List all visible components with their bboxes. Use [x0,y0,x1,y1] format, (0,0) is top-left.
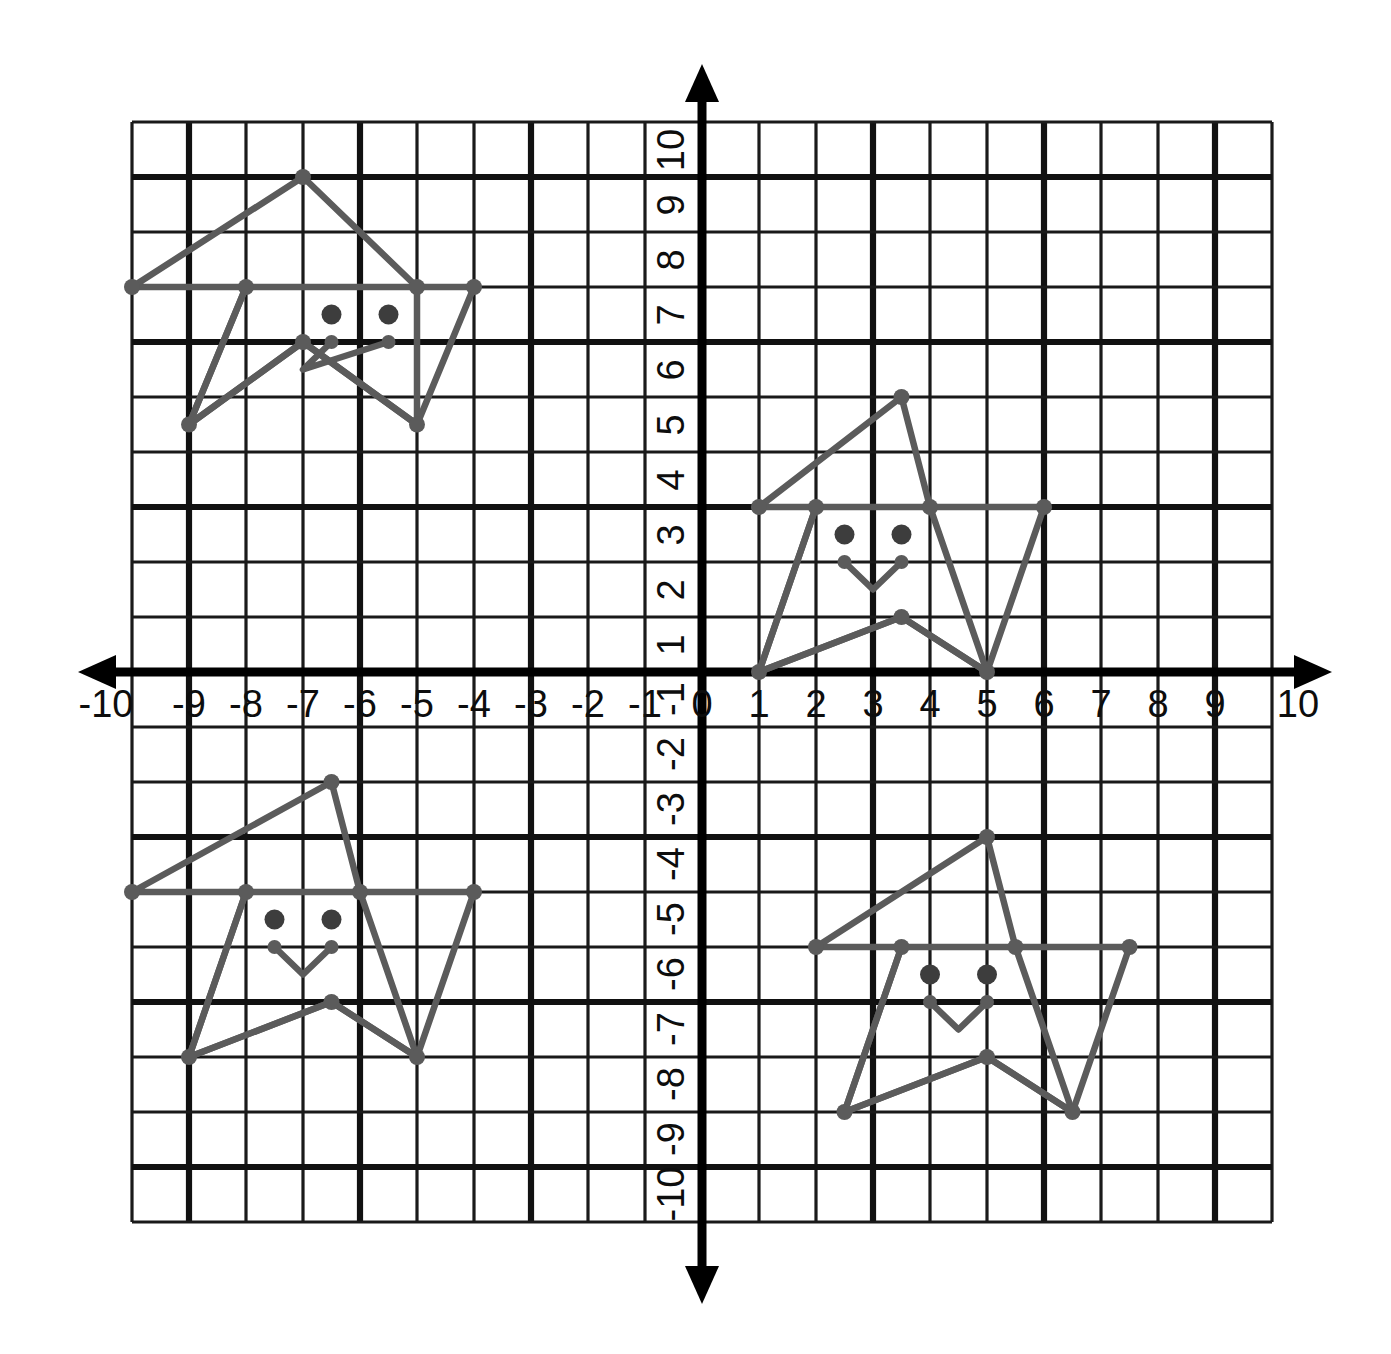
x-tick-label: -4 [457,683,491,725]
star-vertex-dot [1036,499,1052,515]
x-tick-label: 6 [1033,683,1054,725]
star-vertex-dot [181,1049,197,1065]
star-vertex-dot [466,279,482,295]
x-tick-label: 2 [805,683,826,725]
x-tick-label: 7 [1090,683,1111,725]
star-vertex-dot [979,1049,995,1065]
star-mouth-dot [325,335,339,349]
x-tick-label: 10 [1277,683,1319,725]
star-vertex-dot [352,884,368,900]
star-vertex-dot [409,1049,425,1065]
star-vertex-dot [808,939,824,955]
y-tick-label: 8 [650,249,692,270]
x-tick-label: -5 [400,683,434,725]
x-tick-label: -7 [286,683,320,725]
y-tick-label: -10 [650,1167,692,1222]
star-vertex-dot [324,994,340,1010]
star-vertex-dot [295,169,311,185]
y-tick-label: -8 [650,1067,692,1101]
coordinate-plane-svg: -10-9-8-7-6-5-4-3-2-10123456789101098765… [0,0,1391,1354]
star-mouth [303,342,389,370]
x-tick-label: 1 [748,683,769,725]
y-tick-label: -7 [650,1012,692,1046]
y-tick-label: -9 [650,1122,692,1156]
y-tick-label: 6 [650,359,692,380]
star-vertex-dot [751,499,767,515]
y-tick-label: -2 [650,737,692,771]
x-tick-label: 5 [976,683,997,725]
star-mouth-dot [980,995,994,1009]
y-tick-label: 3 [650,524,692,545]
star-vertex-dot [894,389,910,405]
star-eye-dot [265,910,285,930]
x-tick-label: 0 [691,683,712,725]
star-vertex-dot [466,884,482,900]
star-mouth-dot [325,940,339,954]
y-axis-arrow-up [685,64,719,102]
x-tick-label: 9 [1204,683,1225,725]
star-eye-dot [892,525,912,545]
x-tick-label: -6 [343,683,377,725]
star-vertex-dot [238,884,254,900]
star-eye-dot [835,525,855,545]
star-vertex-dot [751,664,767,680]
star-vertex-dot [894,939,910,955]
star-mouth [930,1002,987,1030]
star-eye-dot [920,965,940,985]
y-tick-label: 10 [650,129,692,171]
star-eye-dot [322,305,342,325]
star-vertex-dot [324,774,340,790]
y-tick-label: -1 [650,682,692,716]
star-mouth-dot [838,555,852,569]
x-tick-label: 4 [919,683,940,725]
star-mouth-dot [895,555,909,569]
y-tick-label: -6 [650,957,692,991]
x-tick-label: -9 [172,683,206,725]
star-eye-dot [322,910,342,930]
star-vertex-dot [1122,939,1138,955]
star-vertex-dot [1065,1104,1081,1120]
y-tick-label: 4 [650,469,692,490]
star-vertex-dot [808,499,824,515]
star-vertex-dot [837,1104,853,1120]
x-tick-label: -8 [229,683,263,725]
y-axis-arrow-down [685,1266,719,1304]
star-quadrant-IV [808,829,1138,1120]
star-vertex-dot [124,884,140,900]
y-tick-label: -3 [650,792,692,826]
star-vertex-dot [894,609,910,625]
star-vertex-dot [922,499,938,515]
y-tick-label: -5 [650,902,692,936]
star-vertex-dot [409,279,425,295]
star-vertex-dot [979,829,995,845]
star-mouth-dot [923,995,937,1009]
x-tick-label: -3 [514,683,548,725]
star-eye-dot [379,305,399,325]
y-tick-label: 7 [650,304,692,325]
coordinate-plane-figure: -10-9-8-7-6-5-4-3-2-10123456789101098765… [0,0,1391,1354]
star-vertex-dot [409,417,425,433]
x-tick-label: -10 [79,683,134,725]
star-vertex-dot [124,279,140,295]
x-tick-label: 8 [1147,683,1168,725]
star-eye-dot [977,965,997,985]
y-tick-label: 9 [650,194,692,215]
x-tick-label: -2 [571,683,605,725]
y-tick-label: 5 [650,414,692,435]
y-tick-label: 1 [650,634,692,655]
star-vertex-dot [979,664,995,680]
y-tick-label: 2 [650,579,692,600]
star-mouth-dot [382,335,396,349]
star-vertex-dot [181,417,197,433]
star-vertex-dot [295,334,311,350]
x-tick-label: 3 [862,683,883,725]
y-tick-label: -4 [650,847,692,881]
star-vertex-dot [1008,939,1024,955]
star-quadrant-I [751,389,1052,680]
star-vertex-dot [238,279,254,295]
star-outline [816,837,1130,1112]
star-mouth-dot [268,940,282,954]
